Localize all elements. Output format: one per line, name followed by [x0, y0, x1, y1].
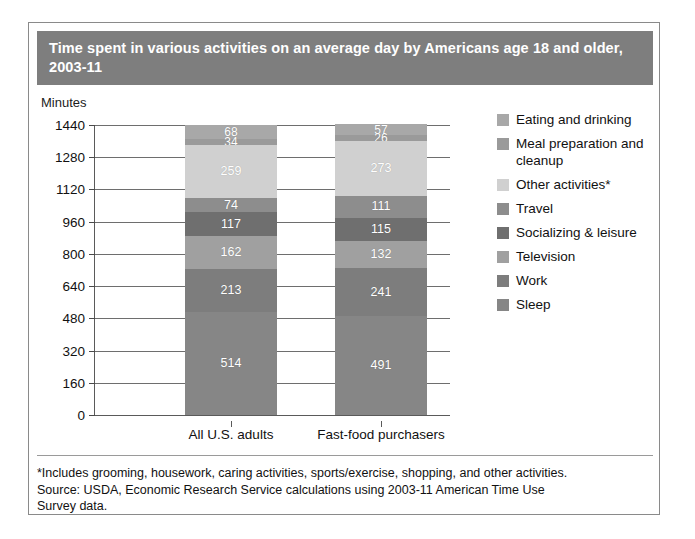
legend-swatch-icon — [497, 275, 509, 287]
y-axis-tick-label: 1120 — [56, 182, 85, 197]
legend-item-label: Sleep — [516, 296, 551, 313]
legend-item-label: Travel — [516, 200, 553, 217]
legend-item-label: Work — [516, 272, 547, 289]
bar-segment-value: 115 — [371, 223, 391, 236]
legend-swatch-icon — [497, 251, 509, 263]
legend-item[interactable]: Other activities* — [497, 176, 657, 193]
bar-segment-value: 213 — [221, 284, 242, 297]
bar-segment-value: 273 — [371, 162, 392, 175]
y-axis-tick — [89, 383, 95, 384]
y-axis-tick — [89, 125, 95, 126]
chart-title-banner: Time spent in various activities on an a… — [37, 31, 653, 85]
bar-segment-value: 241 — [371, 286, 392, 299]
y-axis-tick-label: 0 — [77, 408, 85, 423]
plot-area: 0160320480640800960112012801440 68342597… — [94, 125, 450, 416]
bar-segment: 162 — [185, 236, 277, 269]
bar-segment-value: 111 — [371, 200, 390, 213]
x-axis-category-label: Fast-food purchasers — [291, 427, 471, 442]
bar-segment: 115 — [335, 218, 427, 241]
legend-swatch-icon — [497, 114, 509, 126]
y-axis-tick — [89, 415, 95, 416]
y-axis-tick-label: 320 — [62, 343, 85, 358]
chart-title: Time spent in various activities on an a… — [49, 39, 641, 77]
y-axis-tick-label: 640 — [62, 279, 85, 294]
y-axis-tick — [89, 222, 95, 223]
y-axis-tick-label: 1440 — [55, 118, 85, 133]
legend-item-label: Television — [516, 248, 575, 265]
legend-swatch-icon — [497, 227, 509, 239]
y-axis-tick-label: 160 — [62, 375, 85, 390]
legend-item-label: Eating and drinking — [516, 111, 632, 128]
legend-item[interactable]: Television — [497, 248, 657, 265]
legend-item[interactable]: Eating and drinking — [497, 111, 657, 128]
legend-item-label: Meal preparation and cleanup — [516, 135, 657, 169]
footnote-line-3: Survey data. — [37, 498, 653, 515]
bar-segment: 259 — [185, 145, 277, 197]
bar-segment: 117 — [185, 212, 277, 236]
bar-segment-value: 491 — [371, 359, 392, 372]
legend-item[interactable]: Work — [497, 272, 657, 289]
chart-legend: Eating and drinkingMeal preparation and … — [497, 111, 657, 320]
legend-item-label: Other activities* — [516, 176, 611, 193]
legend-swatch-icon — [497, 138, 509, 150]
y-axis-title: Minutes — [41, 95, 87, 110]
legend-item-label: Socializing & leisure — [516, 224, 637, 241]
bar-segment-value: 514 — [221, 357, 242, 370]
bar-segment: 34 — [185, 139, 277, 146]
bar-segment: 491 — [335, 316, 427, 415]
chart-footnote: *Includes grooming, housework, caring ac… — [37, 455, 653, 515]
y-axis-tick-label: 800 — [62, 246, 85, 261]
legend-item[interactable]: Sleep — [497, 296, 657, 313]
bar-segment: 132 — [335, 241, 427, 268]
bar-segment-value: 259 — [221, 165, 242, 178]
bar-segment: 74 — [185, 198, 277, 213]
bar-segment-value: 74 — [224, 199, 238, 212]
bar-segment-value: 117 — [221, 218, 241, 231]
bar-segment-value: 162 — [221, 246, 242, 259]
bar-stack: 5726273111115132241491 — [335, 124, 427, 415]
bar-segment: 213 — [185, 269, 277, 312]
chart-figure: Time spent in various activities on an a… — [28, 22, 660, 515]
y-axis-tick — [89, 254, 95, 255]
legend-swatch-icon — [497, 299, 509, 311]
bar-segment: 514 — [185, 312, 277, 416]
y-axis-tick-label: 1280 — [55, 150, 85, 165]
footnote-line-1: *Includes grooming, housework, caring ac… — [37, 465, 653, 482]
y-axis-tick — [89, 286, 95, 287]
bar-segment: 273 — [335, 141, 427, 196]
y-axis-tick — [89, 351, 95, 352]
legend-swatch-icon — [497, 203, 509, 215]
legend-item[interactable]: Travel — [497, 200, 657, 217]
footnote-line-2: Source: USDA, Economic Research Service … — [37, 482, 653, 499]
legend-swatch-icon — [497, 179, 509, 191]
y-axis-tick — [89, 318, 95, 319]
bar-segment: 111 — [335, 196, 427, 218]
bar-stack: 683425974117162213514 — [185, 125, 277, 415]
legend-item[interactable]: Socializing & leisure — [497, 224, 657, 241]
legend-item[interactable]: Meal preparation and cleanup — [497, 135, 657, 169]
bar-segment: 241 — [335, 268, 427, 317]
y-axis-tick-label: 480 — [62, 311, 85, 326]
bar-segment-value: 132 — [371, 248, 392, 261]
y-axis-tick — [89, 157, 95, 158]
y-axis-tick — [89, 189, 95, 190]
y-axis-tick-label: 960 — [62, 214, 85, 229]
